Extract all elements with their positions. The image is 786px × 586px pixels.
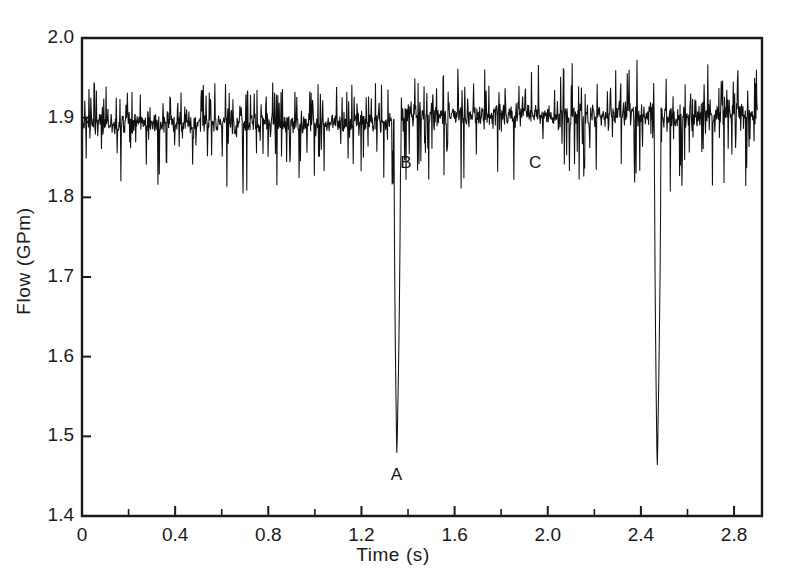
event-label-a: A bbox=[391, 465, 402, 485]
y-tick-label-1.8: 1.8 bbox=[8, 185, 74, 207]
x-axis-title: Time (s) bbox=[0, 544, 786, 566]
y-tick-label-1.5: 1.5 bbox=[8, 424, 74, 446]
x-tick-label-1.6: 1.6 bbox=[415, 524, 495, 546]
y-tick-label-1.6: 1.6 bbox=[8, 345, 74, 367]
y-tick-label-1.7: 1.7 bbox=[8, 265, 74, 287]
x-tick-label-2.0: 2.0 bbox=[508, 524, 588, 546]
flow-vs-time-chart bbox=[0, 0, 786, 586]
x-tick-label-1.2: 1.2 bbox=[321, 524, 401, 546]
x-tick-label-2.8: 2.8 bbox=[694, 524, 774, 546]
x-tick-label-2.4: 2.4 bbox=[601, 524, 681, 546]
x-tick-label-0: 0 bbox=[42, 524, 122, 546]
chart-background bbox=[0, 0, 786, 586]
x-tick-label-0.8: 0.8 bbox=[228, 524, 308, 546]
event-label-b: B bbox=[400, 153, 411, 173]
y-tick-label-1.9: 1.9 bbox=[8, 106, 74, 128]
y-tick-label-1.4: 1.4 bbox=[8, 504, 74, 526]
x-tick-label-0.4: 0.4 bbox=[135, 524, 215, 546]
y-tick-label-2.0: 2.0 bbox=[8, 26, 74, 48]
event-label-c: C bbox=[529, 153, 541, 173]
